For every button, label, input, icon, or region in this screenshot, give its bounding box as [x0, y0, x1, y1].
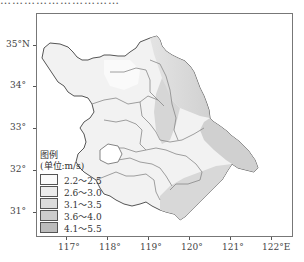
x-label-119: 119° [140, 242, 162, 252]
x-tick [271, 237, 272, 240]
x-tick [189, 237, 190, 240]
legend-label: 4.1～5.5 [64, 222, 102, 235]
legend-swatch [40, 186, 58, 197]
legend-swatch [40, 174, 58, 185]
legend-item: 4.1～5.5 [40, 222, 102, 234]
x-label-118: 118° [99, 242, 121, 252]
y-label-33: 33° [10, 122, 38, 132]
y-label-32: 32° [10, 164, 38, 174]
x-label-120: 120° [181, 242, 203, 252]
x-label-121: 121° [222, 242, 244, 252]
y-label-35: 35°N [6, 39, 34, 49]
y-label-34: 34° [10, 80, 38, 90]
legend-unit: (单位:m/s) [40, 161, 102, 172]
legend-title: 图例 [40, 150, 102, 161]
x-label-117: 117° [58, 242, 80, 252]
x-tick [230, 237, 231, 240]
legend-swatch [40, 222, 58, 233]
legend-item: 2.6～3.0 [40, 186, 102, 198]
y-label-31: 31° [10, 206, 38, 216]
legend-swatch [40, 198, 58, 209]
x-label-122: 122°E [262, 242, 290, 252]
legend-swatch [40, 210, 58, 221]
map-legend: 图例 (单位:m/s) 2.2～2.5 2.6～3.0 3.1～3.5 3.6～… [40, 150, 102, 234]
legend-item: 3.1～3.5 [40, 198, 102, 210]
x-tick [66, 237, 67, 240]
x-tick [148, 237, 149, 240]
legend-item: 2.2～2.5 [40, 174, 102, 186]
x-tick [107, 237, 108, 240]
legend-item: 3.6～4.0 [40, 210, 102, 222]
